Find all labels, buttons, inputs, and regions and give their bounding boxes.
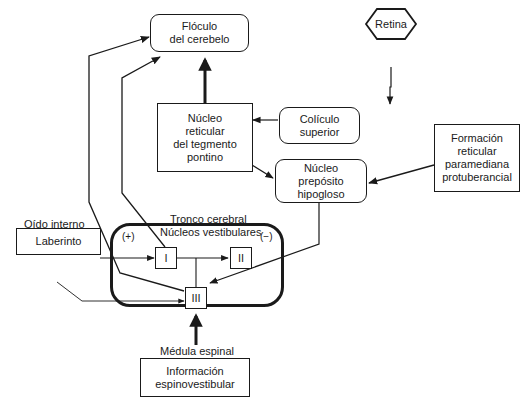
fprp-line2: reticular: [442, 145, 512, 158]
nucleus-ii-label: II: [238, 252, 244, 264]
coliculo-line1: Colículo: [300, 113, 340, 126]
coliculo-line2: superior: [300, 126, 340, 139]
espino-line1: Información: [155, 365, 235, 378]
inhibitory-sign: (−): [260, 230, 273, 243]
fprp-line1: Formación: [442, 132, 512, 145]
node-nucleo-reticular-tegmento-pontino: Núcleo reticular del tegmento pontino: [157, 103, 253, 172]
nucleus-i: I: [155, 247, 177, 269]
plus-label: (+): [122, 231, 135, 242]
minus-label: (−): [260, 231, 273, 242]
fprp-line4: protuberancial: [442, 171, 512, 184]
nucleus-iii-label: III: [191, 292, 200, 304]
nucleus-ii: II: [230, 247, 252, 269]
fprp-line3: paramediana: [442, 158, 512, 171]
nrtp-line2: reticular: [173, 125, 237, 138]
nrtp-line3: del tegmento: [173, 138, 237, 151]
node-informacion-espinovestibular: Información espinovestibular: [140, 358, 250, 397]
floculo-line1: Flóculo: [170, 20, 230, 33]
nucleus-i-label: I: [164, 252, 167, 264]
preposito-line3: hipogloso: [297, 188, 344, 201]
medula-label: Médula espinal: [160, 345, 234, 357]
nrtp-line4: pontino: [173, 151, 237, 164]
espino-line2: espinovestibular: [155, 378, 235, 391]
arrow-fprp-to-preposito: [369, 165, 434, 183]
nrtp-line1: Núcleo: [173, 112, 237, 125]
node-floculo: Flóculo del cerebelo: [150, 14, 249, 52]
node-coliculo-superior: Colículo superior: [279, 107, 360, 144]
preposito-line2: prepósito: [297, 175, 344, 188]
floculo-line2: del cerebelo: [170, 33, 230, 46]
arrow-nrtp-to-preposito: [252, 165, 273, 178]
medula-espinal-label: Médula espinal: [160, 345, 234, 358]
preposito-line1: Núcleo: [297, 162, 344, 175]
node-nucleo-preposito-hipogloso: Núcleo prepósito hipogloso: [275, 159, 367, 203]
excitatory-sign: (+): [122, 230, 135, 243]
nucleus-iii: III: [185, 287, 207, 309]
node-laberinto: Laberinto: [16, 228, 101, 255]
node-retina: Retina: [366, 9, 416, 39]
arrow-retina-to-coliculo: [390, 67, 391, 104]
retina-label: Retina: [375, 18, 407, 30]
laberinto-label: Laberinto: [36, 235, 82, 248]
node-formacion-reticular-paramediana: Formación reticular paramediana protuber…: [434, 124, 520, 192]
connection-lines: [0, 0, 529, 412]
